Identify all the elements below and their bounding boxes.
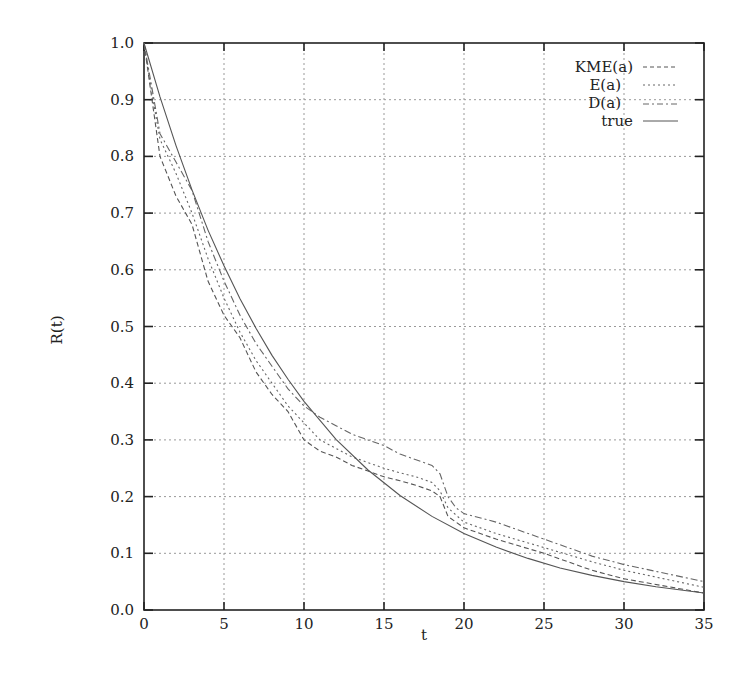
legend-label-true: true <box>601 112 633 130</box>
y-tick-label: 1.0 <box>110 34 134 52</box>
y-tick-label: 0.3 <box>110 431 134 449</box>
y-tick-label: 0.4 <box>110 374 134 392</box>
x-axis-label: t <box>421 626 427 644</box>
x-tick-label: 30 <box>614 615 633 633</box>
y-tick-label: 0.5 <box>110 318 134 336</box>
y-axis-label: R(t) <box>48 315 66 344</box>
y-tick-label: 0.6 <box>110 261 134 279</box>
y-tick-label: 0.8 <box>110 147 134 165</box>
x-tick-label: 15 <box>374 615 393 633</box>
y-tick-label: 0.0 <box>110 601 134 619</box>
reliability-chart: 05101520253035 0.00.10.20.30.40.50.60.70… <box>0 0 743 687</box>
x-tick-label: 10 <box>294 615 313 633</box>
x-tick-label: 0 <box>139 615 149 633</box>
y-tick-label: 0.7 <box>110 204 134 222</box>
y-tick-label: 0.1 <box>110 544 134 562</box>
y-axis-tick-labels: 0.00.10.20.30.40.50.60.70.80.91.0 <box>110 34 134 619</box>
x-tick-label: 35 <box>694 615 713 633</box>
legend-label-d: D(a) <box>588 94 621 112</box>
legend-label-e: E(a) <box>589 76 621 94</box>
x-tick-label: 20 <box>454 615 473 633</box>
legend-label-kme: KME(a) <box>575 58 633 76</box>
legend: KME(a) E(a) D(a) true <box>575 58 678 130</box>
x-tick-label: 25 <box>534 615 553 633</box>
y-tick-label: 0.2 <box>110 488 134 506</box>
x-tick-label: 5 <box>219 615 229 633</box>
y-tick-label: 0.9 <box>110 91 134 109</box>
